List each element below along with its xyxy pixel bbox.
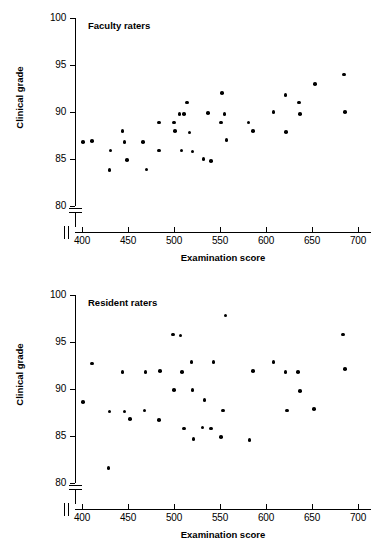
x-axis-tick-label: 400	[62, 513, 102, 523]
data-point	[248, 438, 252, 442]
data-point	[251, 129, 255, 133]
data-point	[178, 112, 182, 116]
x-axis-tick-label: 650	[292, 513, 332, 523]
data-point	[298, 389, 302, 393]
data-point	[221, 409, 225, 413]
data-point	[157, 418, 161, 422]
x-axis-tick-label: 450	[108, 513, 148, 523]
data-point	[109, 149, 113, 153]
x-axis-tick	[220, 227, 221, 232]
data-point	[298, 112, 302, 116]
data-point	[128, 417, 132, 421]
data-point	[144, 370, 148, 374]
x-axis-tick	[82, 504, 83, 509]
y-axis-tick-label: 100	[26, 13, 66, 23]
x-axis-tick	[174, 504, 175, 509]
y-axis-break-mark-upper	[69, 485, 82, 486]
data-point	[225, 138, 229, 142]
y-axis-tick	[70, 483, 75, 484]
data-point	[141, 140, 145, 144]
data-point	[121, 129, 125, 133]
chart-panel-faculty: Faculty raters Clinical grade Examinatio…	[0, 0, 386, 275]
x-axis-tick-label: 700	[338, 236, 378, 246]
data-point	[143, 409, 147, 413]
x-axis-tick-label: 600	[246, 513, 286, 523]
y-axis-tick-label: 90	[26, 384, 66, 394]
x-axis-tick-label: 600	[246, 236, 286, 246]
data-point	[171, 333, 175, 337]
x-axis-tick	[174, 227, 175, 232]
y-axis-break-mark-upper	[69, 208, 82, 209]
x-axis-title: Examination score	[75, 529, 371, 540]
x-axis-title: Examination score	[75, 252, 371, 263]
data-point	[285, 409, 289, 413]
data-point	[125, 158, 129, 162]
data-point	[220, 91, 224, 95]
y-axis-tick-label: 80	[26, 201, 66, 211]
x-axis-tick	[358, 227, 359, 232]
data-point	[209, 427, 213, 431]
x-axis-tick-label: 400	[62, 236, 102, 246]
y-axis-tick-label: 85	[26, 431, 66, 441]
y-axis-break-mark-lower	[69, 489, 82, 490]
data-point	[180, 149, 184, 153]
data-point	[212, 360, 216, 364]
data-point	[272, 110, 276, 114]
data-point	[90, 362, 94, 366]
x-axis-tick-label: 500	[154, 513, 194, 523]
data-point	[123, 140, 127, 144]
data-point	[203, 398, 207, 402]
y-axis-tick-label: 85	[26, 154, 66, 164]
y-axis-tick-label: 80	[26, 478, 66, 488]
data-point	[179, 334, 183, 338]
data-point	[191, 388, 195, 392]
data-point	[182, 427, 186, 431]
y-axis-tick-label: 100	[26, 290, 66, 300]
x-axis-tick-label: 450	[108, 236, 148, 246]
data-point	[297, 101, 301, 105]
x-axis-tick-label: 550	[200, 513, 240, 523]
data-point	[313, 82, 317, 86]
data-point	[123, 410, 127, 414]
y-axis-break-mark-lower	[69, 212, 82, 213]
data-point	[188, 131, 192, 135]
data-point	[219, 121, 223, 125]
data-point	[81, 400, 85, 404]
x-axis-tick-label: 650	[292, 236, 332, 246]
data-point	[81, 140, 85, 144]
y-axis-title: Clinical grade	[14, 43, 25, 153]
x-axis-tick	[312, 504, 313, 509]
data-point	[180, 370, 184, 374]
x-axis-tick-label: 500	[154, 236, 194, 246]
x-axis-tick	[312, 227, 313, 232]
y-axis-tick-label: 90	[26, 107, 66, 117]
plot-area	[75, 295, 371, 483]
x-axis-tick	[266, 504, 267, 509]
data-point	[224, 314, 228, 318]
y-axis-title: Clinical grade	[14, 320, 25, 430]
data-point	[312, 407, 316, 411]
data-point	[342, 73, 346, 77]
data-point	[90, 139, 94, 143]
x-axis-line	[75, 232, 371, 233]
data-point	[251, 369, 255, 373]
data-point	[121, 370, 125, 374]
data-point	[192, 437, 196, 441]
data-point	[190, 360, 194, 364]
data-point	[201, 426, 205, 430]
x-axis-tick	[128, 504, 129, 509]
x-axis-tick	[266, 227, 267, 232]
x-axis-line	[75, 509, 371, 510]
y-axis-tick-label: 95	[26, 60, 66, 70]
data-point	[145, 168, 149, 172]
x-axis-tick-label: 700	[338, 513, 378, 523]
data-point	[247, 121, 251, 125]
y-axis-tick	[70, 206, 75, 207]
data-point	[284, 93, 288, 97]
data-point	[185, 101, 189, 105]
data-point	[202, 157, 206, 161]
data-point	[206, 111, 210, 115]
x-axis-tick	[358, 504, 359, 509]
x-axis-tick	[220, 504, 221, 509]
data-point	[157, 121, 161, 125]
